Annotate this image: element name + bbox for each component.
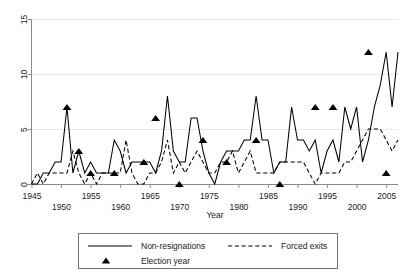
x-tick-label-1960: 1960 — [111, 202, 130, 212]
legend-label-forced-exits: Forced exits — [281, 241, 327, 251]
legend-label-non-resignations: Non-resignations — [141, 241, 205, 251]
x-tick-label-1975: 1975 — [200, 191, 219, 201]
x-tick-label-1990: 1990 — [289, 202, 308, 212]
y-tick-label-15: 15 — [19, 15, 29, 25]
x-tick-label-1955: 1955 — [82, 191, 101, 201]
x-tick-label-1995: 1995 — [318, 191, 337, 201]
x-axis-title: Year — [206, 210, 223, 220]
legend-label-election-year: Election year — [141, 256, 190, 266]
chart-legend: Non-resignations Forced exits Election y… — [79, 234, 338, 269]
y-tick-label-5: 5 — [19, 127, 29, 132]
x-tick-label-1950: 1950 — [52, 202, 71, 212]
x-tick-label-1965: 1965 — [141, 191, 160, 201]
y-tick-label-0: 0 — [19, 182, 29, 187]
x-tick-label-1970: 1970 — [170, 202, 189, 212]
x-tick-label-2000: 2000 — [348, 202, 367, 212]
chart-figure: 051015 194519501955196019651970197519801… — [0, 0, 410, 280]
y-tick-label-10: 10 — [19, 70, 29, 80]
legend-border — [79, 234, 338, 269]
x-tick-label-2005: 2005 — [377, 191, 396, 201]
x-tick-label-1980: 1980 — [229, 202, 248, 212]
line-chart: 051015 194519501955196019651970197519801… — [0, 0, 410, 280]
x-tick-label-1945: 1945 — [23, 191, 42, 201]
x-tick-label-1985: 1985 — [259, 191, 278, 201]
